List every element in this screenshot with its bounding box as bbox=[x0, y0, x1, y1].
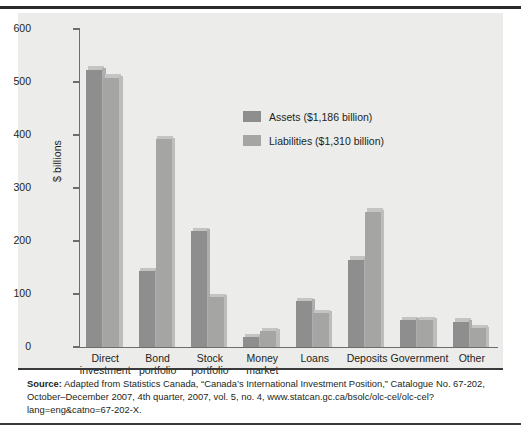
legend-swatch-liabilities-icon bbox=[243, 135, 261, 146]
source-text: Adapted from Statistics Canada, “Canada’… bbox=[27, 378, 485, 415]
bar-side-face bbox=[172, 138, 175, 347]
bar-body bbox=[313, 313, 329, 347]
bar-liabilities bbox=[156, 139, 172, 347]
source-divider-rule bbox=[18, 368, 503, 370]
bar-liabilities bbox=[470, 328, 486, 347]
bar-body bbox=[139, 271, 155, 347]
bar-assets bbox=[348, 260, 364, 347]
bar-body bbox=[470, 328, 486, 347]
bar-body bbox=[400, 320, 416, 347]
x-axis-category-label: Other bbox=[440, 353, 504, 365]
bar-body bbox=[243, 337, 259, 347]
bar-body bbox=[208, 297, 224, 347]
bar-body bbox=[296, 301, 312, 347]
legend-swatch-assets-icon bbox=[243, 111, 261, 122]
bar-side-face bbox=[276, 329, 279, 347]
bar-assets bbox=[243, 337, 259, 347]
bar-liabilities bbox=[313, 313, 329, 347]
bar-body bbox=[365, 212, 381, 347]
bar-side-face bbox=[486, 327, 489, 347]
legend-label-assets: Assets ($1,186 billion) bbox=[269, 111, 372, 123]
x-axis-category-label-line: market bbox=[230, 365, 294, 377]
bar-side-face bbox=[381, 210, 384, 347]
x-axis-category-label-line: Other bbox=[440, 353, 504, 365]
legend-item-liabilities: Liabilities ($1,310 billion) bbox=[243, 134, 384, 147]
source-label: Source: bbox=[27, 378, 62, 389]
chart-plot-panel: $ billions 0100200300400500600 Directinv… bbox=[18, 13, 503, 368]
bar-assets bbox=[400, 320, 416, 347]
legend-label-liabilities: Liabilities ($1,310 billion) bbox=[269, 135, 384, 147]
bar-liabilities bbox=[365, 212, 381, 347]
bar-liabilities bbox=[417, 320, 433, 347]
bar-assets bbox=[139, 271, 155, 347]
bar-assets bbox=[86, 70, 102, 347]
source-note: Source: Adapted from Statistics Canada, … bbox=[27, 377, 505, 417]
bar-side-face bbox=[224, 295, 227, 347]
figure-container: $ billions 0100200300400500600 Directinv… bbox=[0, 0, 521, 429]
bar-body bbox=[156, 139, 172, 347]
bar-body bbox=[417, 320, 433, 347]
chart-legend: Assets ($1,186 billion) Liabilities ($1,… bbox=[243, 110, 384, 158]
top-divider-rule bbox=[0, 6, 521, 9]
bar-side-face bbox=[433, 318, 436, 347]
bar-body bbox=[453, 322, 469, 347]
bottom-divider-rule bbox=[0, 423, 521, 425]
bar-liabilities bbox=[103, 78, 119, 347]
bar-assets bbox=[191, 231, 207, 347]
bar-assets bbox=[296, 301, 312, 347]
bar-body bbox=[86, 70, 102, 347]
bar-side-face bbox=[329, 311, 332, 347]
bar-body bbox=[103, 78, 119, 347]
bar-liabilities bbox=[260, 331, 276, 347]
bars-layer bbox=[18, 13, 503, 368]
bar-body bbox=[191, 231, 207, 347]
bar-body bbox=[348, 260, 364, 347]
bar-assets bbox=[453, 322, 469, 347]
bar-liabilities bbox=[208, 297, 224, 347]
legend-item-assets: Assets ($1,186 billion) bbox=[243, 110, 384, 123]
bar-side-face bbox=[119, 76, 122, 347]
bar-body bbox=[260, 331, 276, 347]
